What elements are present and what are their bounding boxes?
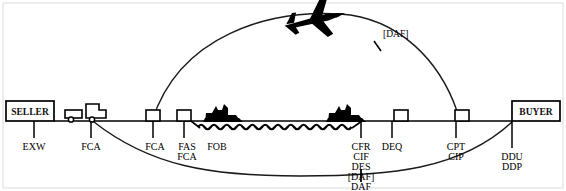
truck-icon: [65, 104, 106, 122]
label-fca-ship: FCA: [177, 151, 197, 162]
air-route-arc: [152, 14, 457, 121]
ship-icon-departure: [203, 104, 243, 122]
diagram-canvas: SELLER BUYER EXW FCA FCA FAS FCA FOB CFR…: [0, 0, 566, 191]
terminal-box-fca: [146, 110, 160, 121]
terminal-box-cpt: [455, 110, 469, 121]
diagram-frame: [3, 3, 563, 188]
label-cip: CIP: [448, 151, 464, 162]
ship-icon-arrival: [326, 104, 366, 122]
incoterms-diagram: SELLER BUYER EXW FCA FCA FAS FCA FOB CFR…: [0, 0, 566, 191]
airplane-icon: [280, 0, 350, 45]
label-fca-premises: FCA: [81, 141, 101, 152]
sea-waves-icon: [198, 125, 352, 130]
label-fob: FOB: [207, 141, 227, 152]
buyer-label: BUYER: [519, 107, 552, 117]
label-fca-terminal: FCA: [145, 141, 165, 152]
label-sea-daf: DAF: [351, 181, 371, 191]
label-deq: DEQ: [382, 141, 403, 152]
label-air-daf: [DAF]: [383, 29, 408, 39]
terminal-box-deq: [394, 110, 408, 121]
seller-label: SELLER: [11, 107, 49, 117]
label-exw: EXW: [23, 141, 46, 152]
air-route-daf-tick: [374, 41, 381, 51]
terminal-box-fas: [177, 110, 191, 121]
label-ddp: DDP: [502, 161, 522, 172]
